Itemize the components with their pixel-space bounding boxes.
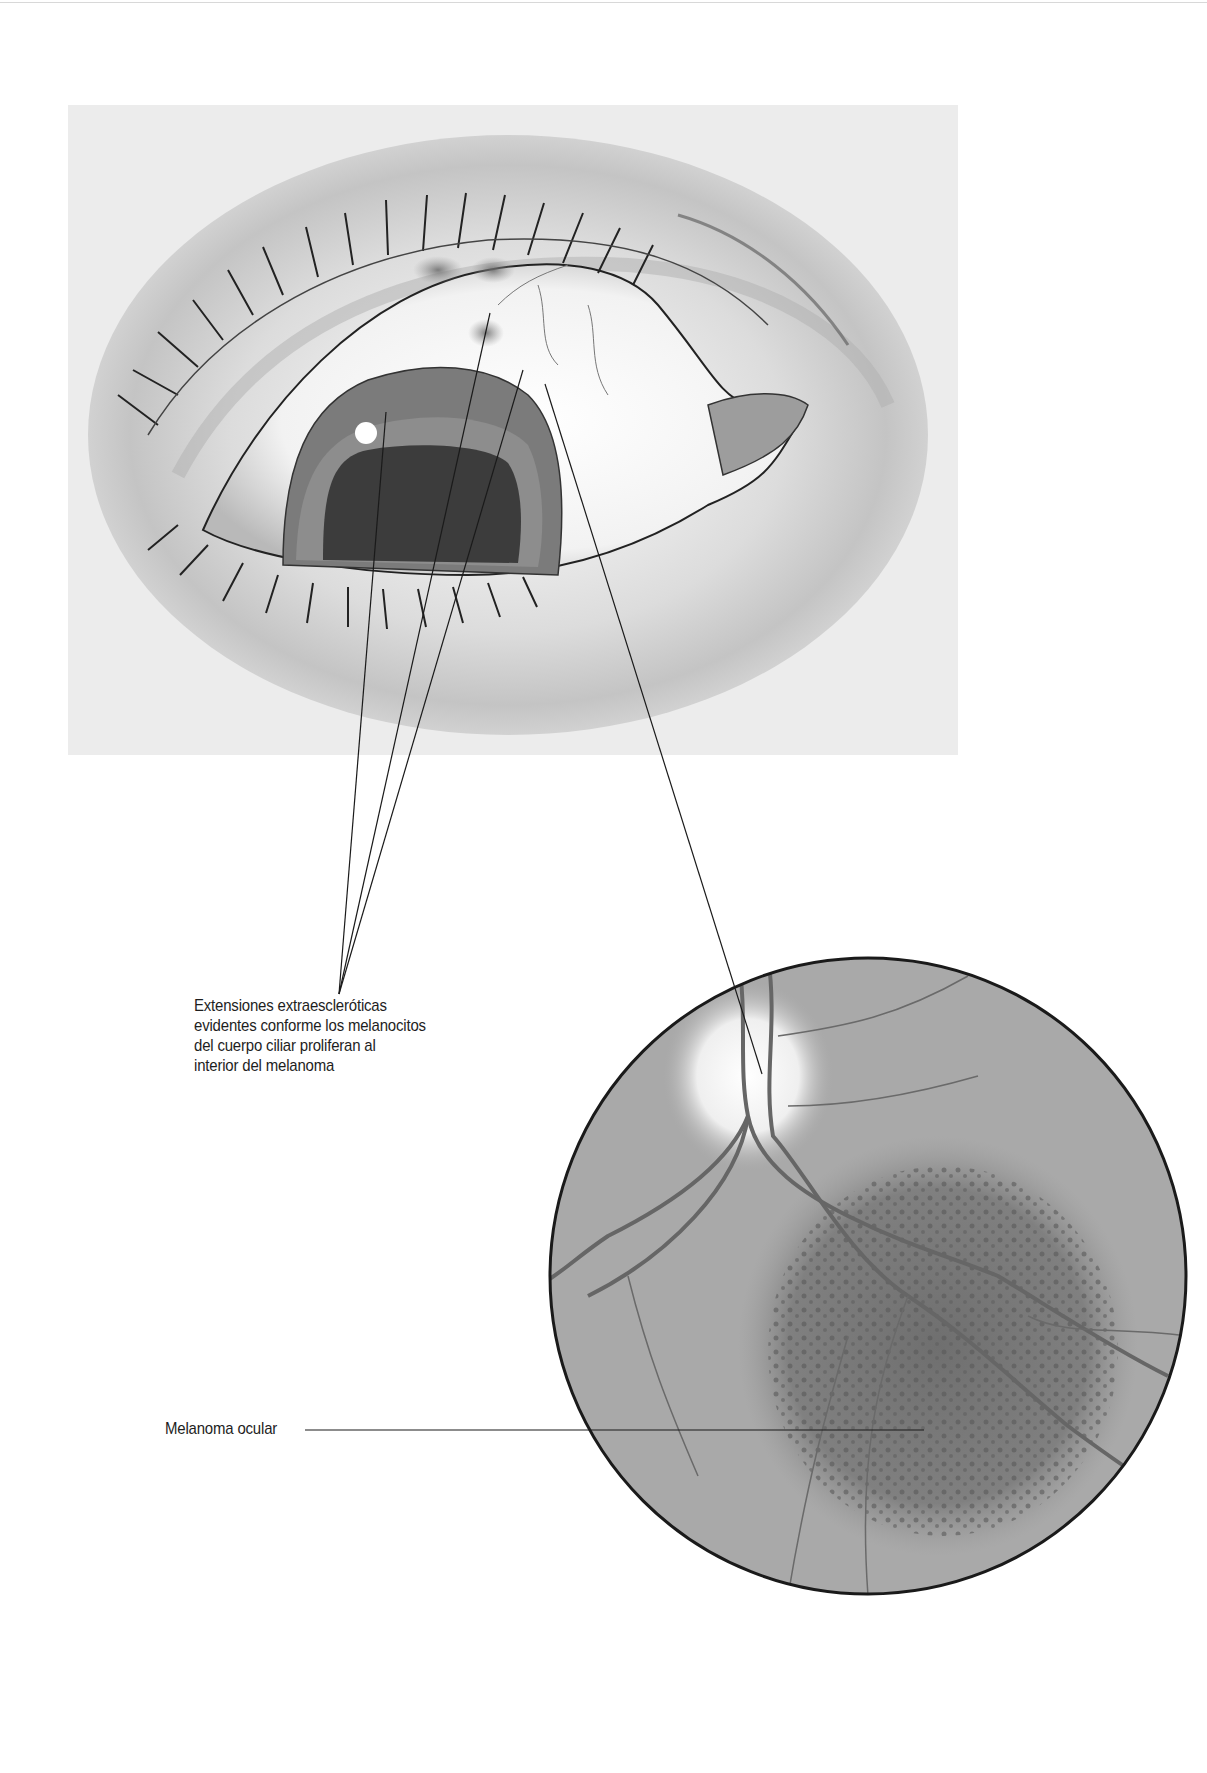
label-line: Extensiones extraescleróticas — [194, 996, 458, 1016]
leader-line-3 — [339, 370, 523, 994]
leader-line-2 — [339, 313, 490, 994]
leader-line-zoom — [545, 384, 762, 1074]
leader-line-1 — [339, 412, 386, 994]
label-line: evidentes conforme los melanocitos — [194, 1016, 458, 1036]
label-ocular-melanoma: Melanoma ocular — [165, 1419, 277, 1439]
label-line: del cuerpo ciliar proliferan al — [194, 1036, 458, 1056]
label-line: interior del melanoma — [194, 1056, 458, 1076]
leader-lines — [0, 0, 1207, 1773]
label-extrascleral-extensions: Extensiones extraescleróticas evidentes … — [194, 996, 458, 1076]
